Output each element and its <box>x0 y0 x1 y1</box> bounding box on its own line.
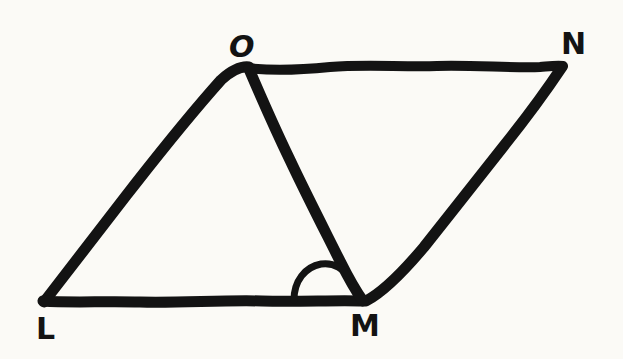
vertex-label-O: O <box>229 32 255 62</box>
vertex-label-L: L <box>36 314 55 344</box>
geometry-figure: L M N O <box>0 0 623 359</box>
edge-ML <box>43 301 363 302</box>
vertex-label-M: M <box>350 311 380 341</box>
vertex-label-N: N <box>561 29 586 59</box>
geometry-svg <box>0 0 623 359</box>
edge-ON <box>248 66 563 70</box>
